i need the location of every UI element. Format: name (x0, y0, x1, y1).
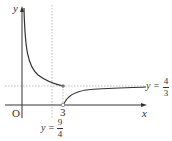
y-axis-arrow (20, 6, 24, 12)
closed-point (61, 84, 65, 88)
curve-left-branch (24, 8, 63, 86)
x-axis-label: x (142, 108, 147, 119)
curve-right-branch (64, 87, 146, 104)
fraction-denominator: 4 (58, 130, 63, 139)
graph-canvas (0, 0, 172, 141)
vertical-asymptote-fraction: 9 4 (57, 118, 63, 139)
fraction-denominator: 3 (164, 89, 169, 98)
horizontal-asymptote-label: y = (146, 81, 160, 91)
fraction-numerator: 4 (164, 77, 169, 86)
y-axis-label: y (13, 3, 18, 14)
vertical-asymptote-label: y = (41, 123, 55, 133)
origin-label: O (12, 108, 20, 119)
fraction-numerator: 9 (58, 118, 63, 127)
horizontal-asymptote-fraction: 4 3 (163, 77, 169, 98)
